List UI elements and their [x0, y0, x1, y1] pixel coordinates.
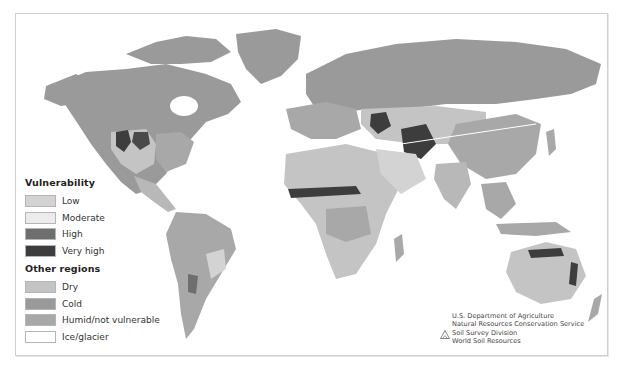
swatch-moderate: [25, 212, 56, 224]
legend-label: Very high: [62, 246, 105, 256]
vulnerability-heading: Vulnerability: [25, 177, 225, 188]
legend-label: Dry: [62, 282, 78, 292]
swatch-humid: [25, 314, 56, 326]
legend-label: Cold: [62, 299, 82, 309]
new-zealand-region: [588, 294, 602, 322]
indonesia-region: [496, 222, 571, 236]
legend-label: High: [62, 229, 83, 239]
swatch-dry: [25, 281, 56, 293]
greenland-region: [236, 29, 301, 84]
eurasia-north-region: [306, 39, 601, 114]
usda-logo-icon: [440, 330, 450, 339]
legend-item-very-high: Very high: [25, 243, 225, 260]
source-credit: U.S. Department of Agriculture Natural R…: [452, 312, 584, 346]
legend-item-low: Low: [25, 193, 225, 210]
credit-line-1: U.S. Department of Agriculture: [452, 312, 584, 320]
japan-region: [546, 129, 556, 156]
credit-line-4: World Soil Resources: [452, 337, 584, 345]
swatch-high: [25, 228, 56, 240]
madagascar-region: [394, 234, 404, 262]
swatch-ice: [25, 331, 56, 343]
credit-line-3: Soil Survey Division: [452, 329, 584, 337]
india-region: [434, 162, 471, 209]
credit-line-2: Natural Resources Conservation Service: [452, 320, 584, 328]
legend-item-humid: Humid/not vulnerable: [25, 312, 225, 329]
swatch-very-high: [25, 245, 56, 257]
us-east-region: [156, 132, 194, 172]
other-regions-heading: Other regions: [25, 263, 225, 274]
legend-item-ice: Ice/glacier: [25, 329, 225, 346]
legend-item-cold: Cold: [25, 296, 225, 313]
swatch-cold: [25, 298, 56, 310]
legend-item-moderate: Moderate: [25, 210, 225, 227]
legend-label: Humid/not vulnerable: [62, 315, 160, 325]
arctic-islands-region: [126, 36, 231, 64]
map-legend: Vulnerability Low Moderate High Very hig…: [25, 177, 225, 345]
map-frame: Vulnerability Low Moderate High Very hig…: [15, 13, 608, 356]
europe-region: [286, 102, 361, 139]
legend-label: Ice/glacier: [62, 332, 109, 342]
legend-item-dry: Dry: [25, 279, 225, 296]
legend-label: Low: [62, 196, 80, 206]
legend-label: Moderate: [62, 213, 105, 223]
swatch-low: [25, 195, 56, 207]
legend-item-high: High: [25, 226, 225, 243]
southeast-asia-region: [481, 182, 516, 219]
